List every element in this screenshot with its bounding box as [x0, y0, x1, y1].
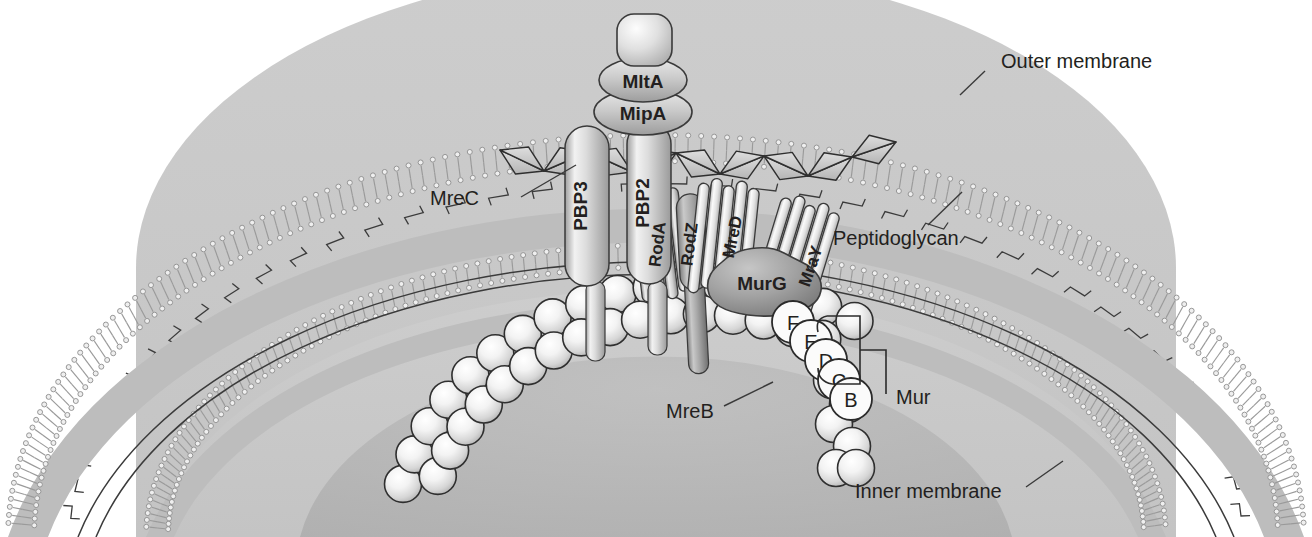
cell-envelope-diagram: FEDCB Outer membrane Peptidoglycan Inner… — [0, 0, 1312, 537]
label-mur: Mur — [896, 386, 931, 408]
label-mipa: MipA — [620, 103, 667, 124]
label-pbp3: PBP3 — [570, 181, 591, 231]
label-pbp2: PBP2 — [632, 178, 653, 228]
label-mrec: MreC — [430, 187, 479, 209]
figure-canvas: FEDCB Outer membrane Peptidoglycan Inner… — [0, 0, 1312, 537]
mur-enzyme-b: B — [844, 389, 857, 411]
label-mlta: MltA — [622, 71, 663, 92]
label-inner-membrane: Inner membrane — [855, 480, 1002, 502]
label-murg: MurG — [737, 273, 787, 294]
label-peptidoglycan: Peptidoglycan — [833, 227, 959, 249]
label-outer-membrane: Outer membrane — [1001, 50, 1152, 72]
om-plug — [617, 14, 672, 66]
label-mreb: MreB — [666, 400, 714, 422]
